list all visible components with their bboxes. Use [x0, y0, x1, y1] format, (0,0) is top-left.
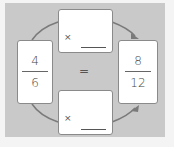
right-denominator: 12: [130, 76, 145, 90]
left-denominator: 6: [31, 76, 39, 90]
bottom-right-arc: [112, 108, 135, 122]
fraction-bar: [125, 71, 151, 72]
bottom-multiplier-card[interactable]: ×: [58, 90, 113, 135]
top-left-arc: [32, 22, 58, 40]
arrow-head-icon: [131, 105, 139, 112]
left-fraction-card: 4 6: [17, 40, 53, 104]
arrow-head-icon: [131, 33, 139, 39]
equals-sign: =: [79, 64, 89, 78]
top-multiplier-card[interactable]: ×: [58, 9, 113, 53]
left-numerator: 4: [31, 54, 39, 68]
top-answer-blank[interactable]: [81, 47, 106, 48]
bottom-left-arc: [32, 104, 58, 122]
bottom-answer-blank[interactable]: [81, 129, 106, 130]
multiply-icon: ×: [64, 32, 72, 42]
right-fraction-card: 8 12: [118, 40, 158, 104]
fraction-bar: [22, 71, 48, 72]
right-numerator: 8: [134, 54, 142, 68]
multiply-icon: ×: [64, 113, 72, 123]
